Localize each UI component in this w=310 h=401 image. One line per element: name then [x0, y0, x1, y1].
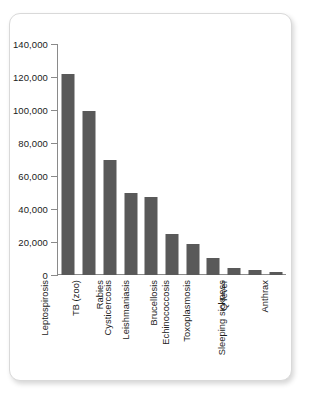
bar-chart: 020,00040,00060,00080,000100,000120,0001… [10, 14, 293, 382]
bar-slot [58, 44, 79, 275]
y-tick-label: 120,000 [13, 72, 48, 83]
x-label-slot: Anthrax [265, 278, 286, 378]
y-tick-mark [51, 242, 58, 243]
bar-slot [224, 44, 245, 275]
x-axis-label: Brucellosis [149, 280, 159, 326]
x-axis-labels: LeptospirosisTB (zoo)RabiesCysticercosis… [58, 278, 286, 378]
x-axis-label: Sleeping sickness [217, 280, 227, 355]
bar [103, 160, 116, 275]
bar-slot [79, 44, 100, 275]
bar [145, 197, 158, 275]
y-tick-mark [51, 209, 58, 210]
x-axis-label: Echinococcosis [160, 280, 170, 345]
y-tick-label: 60,000 [18, 171, 48, 182]
bar [248, 270, 261, 275]
y-tick-mark [51, 44, 58, 45]
bar-slot [265, 44, 286, 275]
bar [83, 111, 96, 275]
bar-slot [182, 44, 203, 275]
y-tick-label: 40,000 [18, 204, 48, 215]
x-axis-label: Anthrax [259, 280, 269, 312]
y-tick-label: 0 [43, 270, 48, 281]
bar [165, 234, 178, 275]
bar [186, 244, 199, 275]
x-axis-label: Toxoplasmosis [183, 280, 193, 342]
bar [228, 268, 241, 275]
x-axis-label: Leishmaniasis [121, 280, 131, 340]
y-tick-label: 20,000 [18, 237, 48, 248]
bar-slot [99, 44, 120, 275]
page-root: 020,00040,00060,00080,000100,000120,0001… [0, 0, 310, 401]
y-tick-mark [51, 110, 58, 111]
bar [62, 74, 75, 275]
x-axis-label: TB (zoo) [71, 280, 81, 316]
bar [269, 272, 282, 275]
bar-slot [162, 44, 183, 275]
bar-slot [203, 44, 224, 275]
y-tick-mark [51, 77, 58, 78]
y-tick-label: 140,000 [13, 39, 48, 50]
x-axis-label: Cysticercosis [103, 280, 113, 335]
y-tick-mark [51, 143, 58, 144]
y-tick-label: 80,000 [18, 138, 48, 149]
y-tick-label: 100,000 [13, 105, 48, 116]
bar-slot [120, 44, 141, 275]
y-tick-mark [51, 275, 58, 276]
x-axis-label: Leptospirosis [41, 280, 51, 335]
bar-slot [141, 44, 162, 275]
y-tick-mark [51, 176, 58, 177]
bar [207, 258, 220, 275]
bar-slot [245, 44, 266, 275]
bars-group [58, 44, 286, 275]
chart-card: 020,00040,00060,00080,000100,000120,0001… [9, 13, 292, 381]
bar [124, 193, 137, 276]
